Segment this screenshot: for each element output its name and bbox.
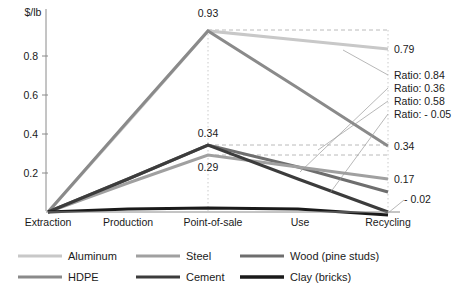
point-label-rec-neg-0.02: - 0.02: [404, 193, 431, 205]
annotation-ratio-0.36: Ratio: 0.36: [394, 82, 445, 94]
legend-item-aluminum[interactable]: Aluminum: [18, 250, 117, 262]
point-label-pos-0.29: 0.29: [198, 161, 219, 173]
point-label-rec-0.79: 0.79: [394, 43, 415, 55]
legend-label-wood: Wood (pine studs): [290, 250, 379, 262]
x-tick-label-use: Use: [291, 216, 310, 228]
chart-legend: Aluminum Steel Wood (pine studs) HDPE Ce…: [18, 250, 379, 283]
x-tick-label-recycling: Recycling: [365, 216, 411, 228]
legend-item-cement[interactable]: Cement: [136, 271, 225, 283]
legend-label-clay: Clay (bricks): [290, 271, 351, 283]
legend-label-steel: Steel: [186, 250, 211, 262]
x-tick-label-extraction: Extraction: [25, 216, 72, 228]
y-axis-ticks: [42, 56, 48, 173]
annotation-ratio-0.84: Ratio: 0.84: [394, 69, 445, 81]
x-tick-label-point-of-sale: Point-of-sale: [184, 216, 243, 228]
legend-item-clay[interactable]: Clay (bricks): [240, 271, 351, 283]
point-label-pos-0.34: 0.34: [198, 127, 219, 139]
point-label-rec-0.34: 0.34: [394, 140, 415, 152]
legend-item-steel[interactable]: Steel: [136, 250, 211, 262]
series-line-hdpe: [48, 31, 388, 212]
point-label-rec-0.17: 0.17: [394, 173, 415, 185]
y-tick-label-0.4: 0.4: [23, 128, 38, 140]
point-label-pos-0.93: 0.93: [198, 7, 219, 19]
legend-label-cement: Cement: [186, 271, 225, 283]
y-tick-label-0.6: 0.6: [23, 89, 38, 101]
chart-container: $/lb 0.8 0.6 0.4 0.2: [0, 0, 460, 295]
legend-label-hdpe: HDPE: [68, 271, 99, 283]
y-tick-label-0.2: 0.2: [23, 167, 38, 179]
legend-item-wood[interactable]: Wood (pine studs): [240, 250, 379, 262]
legend-label-aluminum: Aluminum: [68, 250, 117, 262]
legend-item-hdpe[interactable]: HDPE: [18, 271, 99, 283]
series-line-aluminum: [48, 31, 388, 212]
y-axis-unit-label: $/lb: [25, 6, 42, 18]
annotation-ratio-0.58: Ratio: 0.58: [394, 95, 445, 107]
y-tick-label-0.8: 0.8: [23, 50, 38, 62]
x-tick-label-production: Production: [103, 216, 153, 228]
annotation-ratio-neg-0.05: Ratio: - 0.05: [394, 108, 451, 120]
line-chart: $/lb 0.8 0.6 0.4 0.2: [0, 0, 460, 295]
